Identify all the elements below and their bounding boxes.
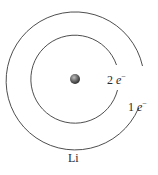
bohr-model-diagram: 2 e− 1 e− Li: [0, 0, 158, 175]
element-label: Li: [68, 151, 79, 165]
outer-shell-label: 1 e−: [128, 99, 147, 114]
nucleus: [70, 74, 80, 84]
inner-shell-label: 2 e−: [107, 72, 126, 87]
